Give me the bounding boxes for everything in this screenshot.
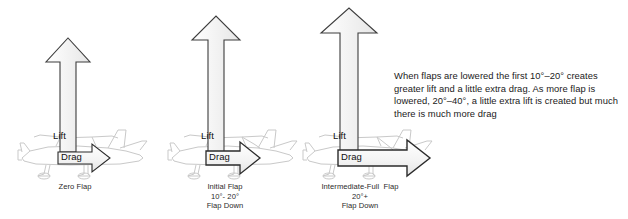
lift-arrow [321, 8, 377, 152]
drag-label: Drag [61, 151, 82, 162]
panel-zero-flap: Lift Drag Zero Flap [0, 0, 150, 219]
drag-label: Drag [209, 151, 230, 162]
explanation-text: When flaps are lowered the first 10°–20°… [394, 70, 626, 120]
drag-label: Drag [341, 151, 362, 162]
lift-label: Lift [333, 130, 346, 141]
panel-initial-flap: Lift Drag Initial Flap 10°- 20° Flap Dow… [150, 0, 300, 219]
panel-caption: Zero Flap [0, 182, 150, 192]
lift-arrow [192, 16, 240, 152]
lift-label: Lift [201, 130, 214, 141]
panel-caption: Intermediate-Full Flap 20°+ Flap Down [280, 182, 440, 211]
flap-lift-drag-diagram: Lift Drag Zero Flap [0, 0, 628, 219]
panel-caption: Initial Flap 10°- 20° Flap Down [150, 182, 300, 211]
lift-label: Lift [53, 130, 66, 141]
